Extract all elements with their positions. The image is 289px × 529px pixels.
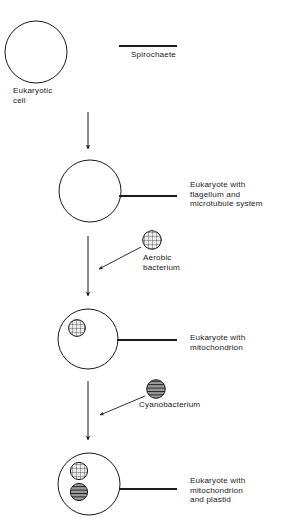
label-aerobic-bacterium: Aerobic bacterium [143,253,180,272]
mitochondrion-glyph-stage-3 [69,320,86,337]
mitochondrion-glyph-stage-4 [70,462,87,479]
label-eukaryote-mitochondrion-plastid: Eukaryote with mitochondrion and plastid [190,476,245,505]
label-eukaryotic-cell: Eukaryotic cell [13,86,52,105]
label-eukaryote-flagellum: Eukaryote with flagellum and microtubule… [190,180,263,209]
eukaryote-mitochondrion-plastid-circle [58,453,120,515]
eukaryote-flagellum-circle [59,160,121,222]
label-spirochaete: Spirochaete [131,50,176,60]
stage-2-cell-group [59,160,177,222]
stage-3-cell-group [58,309,177,369]
endosymbiosis-diagram: Eukaryotic cell Spirochaete Eukaryote wi… [0,0,289,529]
stage-1-cell-group [5,21,67,83]
eukaryotic-cell-circle [5,21,67,83]
aerobic-bacterium-arrow [99,247,141,269]
label-cyanobacterium: Cyanobacterium [139,400,200,410]
plastid-glyph-stage-4 [70,483,87,500]
aerobic-bacterium-glyph [143,231,162,250]
stage-4-cell-group [58,453,177,515]
cyanobacterium-group [100,380,165,415]
cyanobacterium-glyph [147,380,166,399]
eukaryote-mitochondrion-circle [58,309,118,369]
label-eukaryote-mitochondrion: Eukaryote with mitochondrion [190,333,245,352]
